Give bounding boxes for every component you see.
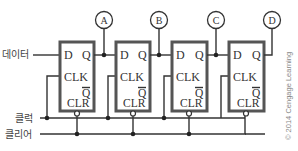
pin-q: Q <box>82 48 91 62</box>
pin-d: D <box>176 48 185 62</box>
flip-flop-4: D Q CLK Q CLR <box>221 42 264 134</box>
pin-clr: CLR <box>237 97 260 109</box>
junction-dot <box>131 132 136 137</box>
pin-clr: CLR <box>67 97 90 109</box>
pin-q: Q <box>195 48 204 62</box>
output-a: A <box>96 12 113 29</box>
pin-clk: CLK <box>176 70 200 84</box>
output-c: C <box>208 12 225 29</box>
data-input-label: 데이터 <box>2 49 29 60</box>
flip-flop-3: D Q CLK Q CLR <box>162 42 207 136</box>
output-b: B <box>151 12 168 29</box>
junction-dot <box>157 53 162 58</box>
pin-clk: CLK <box>64 70 88 84</box>
clr-bubble <box>244 111 249 116</box>
svg-text:B: B <box>156 15 163 26</box>
clear-input-label: 클리어 <box>5 129 32 140</box>
svg-text:C: C <box>213 15 220 26</box>
flip-flop-1: D Q CLK Q CLR <box>45 42 94 136</box>
pin-d: D <box>64 48 73 62</box>
pin-clk: CLK <box>120 70 144 84</box>
pin-q: Q <box>252 48 261 62</box>
pin-d: D <box>233 48 242 62</box>
junction-dot <box>106 116 111 121</box>
pin-q: Q <box>138 48 147 62</box>
clock-input-label: 클럭 <box>15 113 33 124</box>
copyright-text: © 2014 Cengage Learning <box>284 52 293 140</box>
svg-text:A: A <box>100 15 108 26</box>
junction-dot <box>102 53 107 58</box>
junction-dot <box>187 132 192 137</box>
clr-bubble <box>131 111 136 116</box>
pin-clr: CLR <box>180 97 203 109</box>
clr-bubble <box>75 111 80 116</box>
pin-clk: CLK <box>233 70 257 84</box>
pin-clr: CLR <box>123 97 146 109</box>
clr-bubble <box>187 111 192 116</box>
junction-dot <box>75 132 80 137</box>
flip-flop-2: D Q CLK Q CLR <box>106 42 150 136</box>
junction-dot <box>162 116 167 121</box>
svg-text:D: D <box>268 15 275 26</box>
junction-dot <box>214 53 219 58</box>
pin-d: D <box>120 48 129 62</box>
output-d: D <box>264 12 281 29</box>
shift-register-diagram: 데이터 클럭 클리어 D Q CLK Q CLR D Q CLK Q <box>0 0 298 151</box>
junction-dot <box>45 116 50 121</box>
